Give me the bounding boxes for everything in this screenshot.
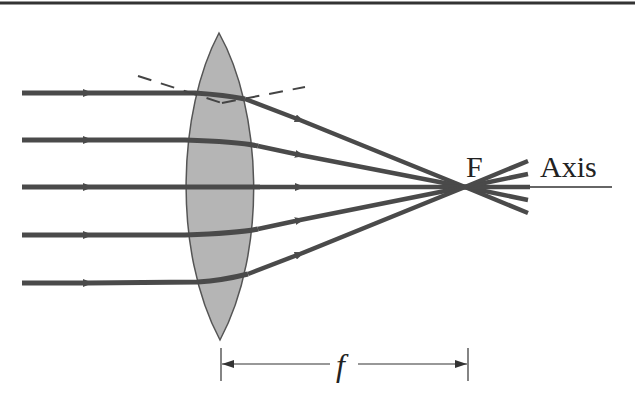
- focal-length-dimension: f: [221, 347, 468, 383]
- refracted-rays: [245, 99, 530, 274]
- refracted-ray-2a: [258, 146, 300, 155]
- refracted-ray-1a: [245, 99, 300, 120]
- refracted-ray-5a: [248, 254, 300, 274]
- axis-label: Axis: [540, 150, 597, 183]
- focal-point-label: F: [466, 150, 483, 183]
- focal-length-label: f: [336, 347, 349, 383]
- refracted-ray-4a: [258, 220, 300, 229]
- lens-diagram: F Axis f: [0, 0, 635, 399]
